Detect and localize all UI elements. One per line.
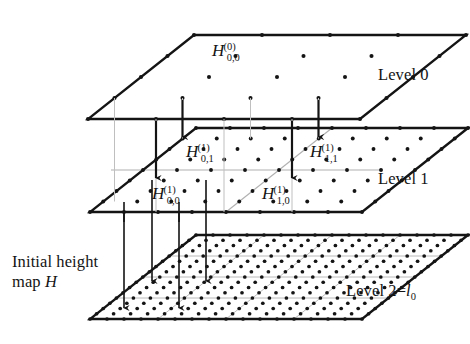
node-label-h01-level1: H(1)0,1 [186,141,224,164]
level-2-text: Level 2= [346,281,406,300]
level-1-label: Level 1 [378,170,429,188]
node-superscript: (1) [273,184,285,195]
node-subscript: 0,0 [167,195,180,206]
figure-canvas: H(0)0,0 H(1)0,1 H(1)1,1 H(1)0,0 H(1)1,0 … [0,0,470,344]
node-label-h11-level1: H(1)1,1 [310,141,348,164]
initial-height-symbol: H [45,272,57,291]
node-label-h00-level1: H(1)0,0 [152,183,190,206]
level-2-plane [88,233,470,321]
node-superscript: (0) [223,41,235,52]
node-superscript: (1) [163,184,175,195]
level-2-label: Level 2=l0 [346,282,416,303]
node-subscript: 0,0 [227,52,240,63]
initial-height-prefix: map [12,272,45,291]
node-subscript: 1,1 [325,153,338,164]
initial-height-line2: map H [12,272,98,292]
initial-height-line1: Initial height [12,252,98,272]
node-subscript: 0,1 [201,153,214,164]
level-2-subscript: 0 [411,291,416,302]
node-label-h00-level0: H(0)0,0 [212,40,250,63]
node-subscript: 1,0 [277,195,290,206]
node-superscript: (1) [197,142,209,153]
initial-height-map-label: Initial height map H [12,252,98,292]
node-superscript: (1) [321,142,333,153]
level-0-label: Level 0 [378,66,429,84]
node-label-h10-level1: H(1)1,0 [262,183,300,206]
